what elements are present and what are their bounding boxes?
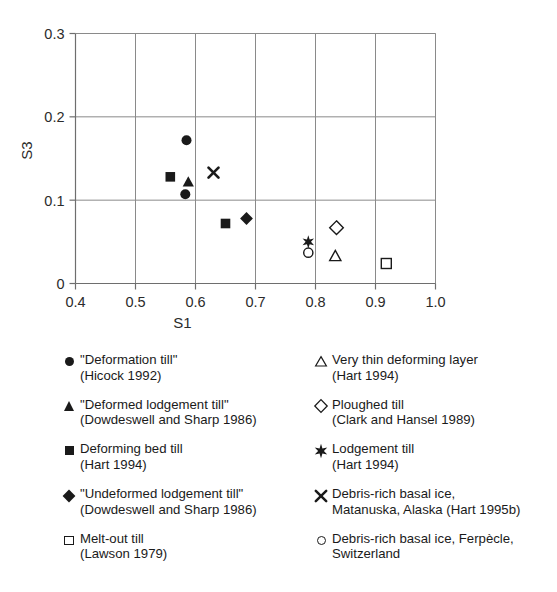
legend-entry-right-1: Ploughed till (Clark and Hansel 1989) — [310, 397, 550, 428]
scatter-plot-figure: 0.40.50.60.70.80.91.000.10.20.3S1S3 — [0, 0, 557, 340]
legend-entry-label: Very thin deforming layer (Hart 1994) — [332, 352, 478, 383]
legend-column-right: Very thin deforming layer (Hart 1994)Plo… — [310, 352, 550, 592]
y-axis-title: S3 — [18, 141, 35, 159]
legend-entry-right-3: Debris-rich basal ice, Matanuska, Alaska… — [310, 486, 550, 517]
data-point-square-filled-2-1 — [221, 219, 231, 229]
legend-marker-star-icon — [310, 442, 332, 459]
legend-entry-left-4: Melt-out till (Lawson 1979) — [58, 531, 310, 562]
star-glyph — [313, 443, 329, 459]
square-filled-glyph — [65, 446, 74, 455]
triangle-open-glyph — [313, 354, 329, 370]
y-tick-label-0.2: 0.2 — [44, 109, 64, 125]
legend-marker-ex-icon — [310, 487, 332, 504]
circle-open-glyph — [317, 536, 326, 545]
legend-entry-label: Melt-out till (Lawson 1979) — [80, 531, 167, 562]
legend-entry-right-4: Debris-rich basal ice, Ferpècle, Switzer… — [310, 531, 550, 562]
legend-entry-label: Deforming bed till (Hart 1994) — [80, 441, 183, 472]
legend-marker-triangle-filled-icon — [58, 398, 80, 415]
x-tick-label-0.4: 0.4 — [65, 294, 85, 310]
legend-marker-square-open-icon — [58, 532, 80, 549]
legend-entry-label: Ploughed till (Clark and Hansel 1989) — [332, 397, 475, 428]
data-point-circle-open-9-0 — [304, 248, 313, 257]
legend-entry-label: "Undeformed lodgement till" (Dowdeswell … — [80, 486, 257, 517]
legend-marker-circle-open-icon — [310, 532, 332, 549]
x-tick-label-0.8: 0.8 — [305, 294, 325, 310]
legend-entry-label: "Deformed lodgement till" (Dowdeswell an… — [80, 397, 257, 428]
legend-entry-left-2: Deforming bed till (Hart 1994) — [58, 441, 310, 472]
y-tick-label-0.3: 0.3 — [44, 26, 64, 42]
legend-entry-left-1: "Deformed lodgement till" (Dowdeswell an… — [58, 397, 310, 428]
legend-marker-diamond-filled-icon — [58, 487, 80, 504]
data-point-circle-filled-0-1 — [180, 189, 190, 199]
x-tick-label-0.7: 0.7 — [245, 294, 265, 310]
square-open-glyph — [64, 536, 74, 546]
data-point-square-filled-2-0 — [166, 172, 176, 182]
diamond-filled-glyph — [61, 488, 77, 504]
legend-entry-left-3: "Undeformed lodgement till" (Dowdeswell … — [58, 486, 310, 517]
x-tick-label-1.0: 1.0 — [425, 294, 445, 310]
y-tick-label-0: 0 — [56, 276, 64, 292]
diamond-open-glyph — [313, 398, 329, 414]
x-tick-label-0.6: 0.6 — [185, 294, 205, 310]
ex-glyph — [313, 488, 329, 504]
legend-entry-label: Debris-rich basal ice, Ferpècle, Switzer… — [332, 531, 514, 562]
x-tick-label-0.5: 0.5 — [125, 294, 145, 310]
circle-filled-glyph — [65, 357, 74, 366]
x-axis-title: S1 — [173, 314, 191, 331]
legend-marker-triangle-open-icon — [310, 353, 332, 370]
legend-entry-label: "Deformation till" (Hicock 1992) — [80, 352, 177, 383]
chart-legend: "Deformation till" (Hicock 1992)"Deforme… — [0, 352, 557, 592]
data-point-circle-filled-0-0 — [182, 135, 192, 145]
legend-entry-right-2: Lodgement till (Hart 1994) — [310, 441, 550, 472]
legend-entry-right-0: Very thin deforming layer (Hart 1994) — [310, 352, 550, 383]
y-tick-label-0.1: 0.1 — [44, 193, 64, 209]
x-tick-label-0.9: 0.9 — [365, 294, 385, 310]
legend-entry-label: Lodgement till (Hart 1994) — [332, 441, 414, 472]
legend-marker-circle-filled-icon — [58, 353, 80, 370]
data-point-square-open-4-0 — [381, 259, 391, 269]
legend-marker-square-filled-icon — [58, 442, 80, 459]
legend-column-left: "Deformation till" (Hicock 1992)"Deforme… — [58, 352, 310, 592]
legend-entry-left-0: "Deformation till" (Hicock 1992) — [58, 352, 310, 383]
triangle-filled-glyph — [64, 401, 74, 411]
legend-entry-label: Debris-rich basal ice, Matanuska, Alaska… — [332, 486, 520, 517]
chart-canvas: 0.40.50.60.70.80.91.000.10.20.3S1S3 — [0, 0, 557, 340]
legend-marker-diamond-open-icon — [310, 398, 332, 415]
